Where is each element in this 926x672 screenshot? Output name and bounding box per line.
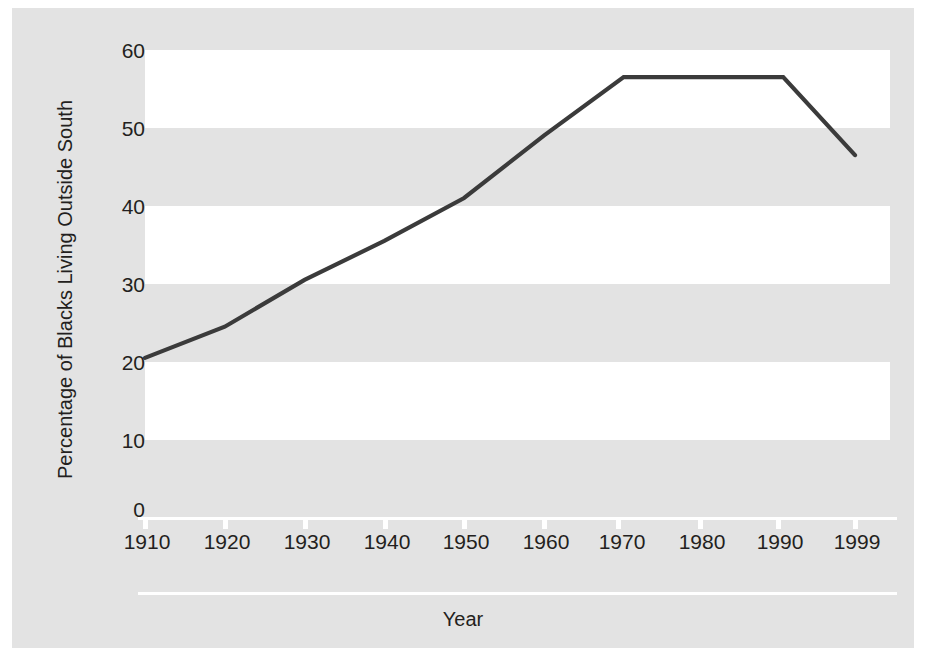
footer-rule xyxy=(138,592,897,595)
x-tick-1930: 1930 xyxy=(284,531,331,552)
x-tick-mark-1970 xyxy=(616,520,621,529)
background-band-10-20 xyxy=(145,362,890,440)
x-axis-tick-labels: 1910 1920 1930 1940 1950 1960 1970 1980 … xyxy=(12,531,914,565)
x-tick-mark-1920 xyxy=(223,520,228,529)
x-tick-1970: 1970 xyxy=(599,531,646,552)
x-tick-mark-1990 xyxy=(776,520,781,529)
x-tick-mark-1999 xyxy=(853,520,858,529)
y-tick-30: 30 xyxy=(99,274,145,295)
x-tick-mark-1960 xyxy=(542,520,547,529)
plot-area xyxy=(145,50,890,518)
x-tick-1910: 1910 xyxy=(124,531,171,552)
x-tick-1980: 1980 xyxy=(679,531,726,552)
y-axis-title: Percentage of Blacks Living Outside Sout… xyxy=(54,50,77,530)
x-tick-mark-1940 xyxy=(383,520,388,529)
y-tick-50: 50 xyxy=(99,118,145,139)
background-band-30-40 xyxy=(145,206,890,284)
y-tick-60: 60 xyxy=(99,40,145,61)
x-tick-1999: 1999 xyxy=(834,531,881,552)
x-tick-1990: 1990 xyxy=(757,531,804,552)
background-band-50-60 xyxy=(145,50,890,128)
x-tick-1920: 1920 xyxy=(204,531,251,552)
x-tick-mark-1930 xyxy=(303,520,308,529)
y-tick-10: 10 xyxy=(99,430,145,451)
chart-panel-background: 60 50 40 30 20 10 0 Percentage of Blacks… xyxy=(12,8,914,648)
x-tick-mark-1980 xyxy=(698,520,703,529)
x-tick-1950: 1950 xyxy=(443,531,490,552)
x-tick-mark-1950 xyxy=(462,520,467,529)
y-tick-40: 40 xyxy=(99,196,145,217)
x-tick-1960: 1960 xyxy=(523,531,570,552)
y-tick-20: 20 xyxy=(99,352,145,373)
x-tick-1940: 1940 xyxy=(364,531,411,552)
x-axis-baseline xyxy=(138,517,897,520)
x-axis-title: Year xyxy=(12,608,914,631)
x-tick-mark-1910 xyxy=(143,520,148,529)
chart-figure: 60 50 40 30 20 10 0 Percentage of Blacks… xyxy=(0,0,926,672)
